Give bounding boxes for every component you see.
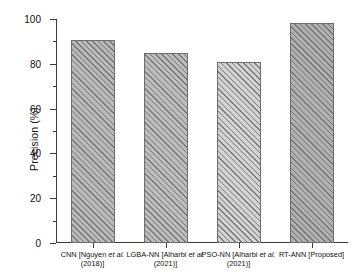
- x-tick-1: [93, 243, 94, 248]
- x-axis-label-2: LGBA-NN [Alharbi et al.(2021)]: [126, 250, 204, 268]
- y-tick-80: 80: [50, 64, 56, 65]
- y-minor-tick-10: [53, 221, 57, 222]
- y-tick-label-60: 60: [30, 103, 41, 114]
- x-axis-label-line: CNN [Nguyen et al.: [61, 250, 125, 259]
- x-axis-label-line: (2021)]: [126, 259, 204, 268]
- y-axis-title: Precision (%): [28, 69, 40, 209]
- y-tick-label-80: 80: [30, 58, 41, 69]
- x-axis-label-line: (2018)]: [61, 259, 125, 268]
- y-tick-0: 0: [50, 243, 56, 244]
- y-tick-label-40: 40: [30, 148, 41, 159]
- precision-bar-chart: Precision (%) 020406080100 CNN [Nguyen e…: [0, 0, 360, 278]
- x-axis-label-1: CNN [Nguyen et al.(2018)]: [61, 250, 125, 268]
- y-minor-tick-30: [53, 176, 57, 177]
- x-axis-label-line: LGBA-NN [Alharbi et al.: [126, 250, 204, 259]
- x-axis-label-line: PSO-NN [Alharbi et al.: [202, 250, 276, 259]
- y-minor-tick-50: [53, 131, 57, 132]
- bar-2: [144, 53, 188, 243]
- y-tick-100: 100: [50, 19, 56, 20]
- x-tick-4: [312, 243, 313, 248]
- y-tick-label-20: 20: [30, 193, 41, 204]
- y-axis-line: [56, 19, 57, 243]
- bar-1: [71, 40, 115, 243]
- x-axis-label-3: PSO-NN [Alharbi et al.(2021)]: [202, 250, 276, 268]
- plot-area: 020406080100 CNN [Nguyen et al.(2018)]LG…: [56, 19, 348, 243]
- x-tick-3: [239, 243, 240, 248]
- y-tick-60: 60: [50, 109, 56, 110]
- bar-3: [217, 62, 261, 243]
- x-tick-2: [166, 243, 167, 248]
- y-minor-tick-70: [53, 86, 57, 87]
- y-tick-label-100: 100: [24, 14, 41, 25]
- x-axis-label-line: RT-ANN [Proposed]: [279, 250, 344, 259]
- y-tick-20: 20: [50, 198, 56, 199]
- x-axis-label-4: RT-ANN [Proposed]: [279, 250, 344, 259]
- x-axis-label-line: (2021)]: [202, 259, 276, 268]
- y-tick-label-0: 0: [35, 238, 41, 249]
- bar-4: [290, 23, 334, 243]
- y-tick-40: 40: [50, 153, 56, 154]
- y-minor-tick-90: [53, 41, 57, 42]
